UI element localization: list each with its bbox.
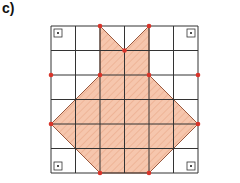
grid-figure: [0, 0, 240, 183]
vertex-point: [98, 171, 103, 176]
vertex-point: [196, 73, 201, 78]
right-angle-dot-icon: [190, 165, 192, 167]
vertex-point: [98, 73, 103, 78]
vertex-point: [147, 24, 152, 29]
vertex-point: [147, 73, 152, 78]
grid-lines: [51, 26, 198, 173]
vertex-point: [196, 122, 201, 127]
vertex-point: [49, 73, 54, 78]
right-angle-dot-icon: [57, 32, 59, 34]
vertex-point: [49, 122, 54, 127]
right-angle-dot-icon: [190, 32, 192, 34]
vertex-point: [98, 24, 103, 29]
right-angle-dot-icon: [57, 165, 59, 167]
vertex-point: [147, 171, 152, 176]
vertex-point: [122, 48, 127, 53]
